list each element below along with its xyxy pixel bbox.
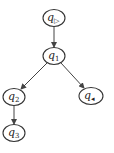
node-q-start: q▷ bbox=[43, 10, 65, 27]
node-label: q bbox=[84, 89, 91, 102]
node-label: q bbox=[48, 49, 55, 62]
node-q-end: q◂ bbox=[79, 88, 103, 105]
edge-q1-q2 bbox=[21, 63, 47, 89]
node-q3: q3 bbox=[3, 125, 25, 142]
node-label: q bbox=[8, 90, 15, 103]
tree-diagram: q▷ q1 q2 q◂ q3 bbox=[0, 0, 114, 153]
node-subscript: 1 bbox=[55, 55, 59, 63]
start-marker-icon: ▷ bbox=[54, 17, 60, 25]
node-q2: q2 bbox=[3, 89, 25, 106]
node-label: q bbox=[8, 126, 15, 139]
node-subscript: 2 bbox=[15, 96, 19, 104]
node-subscript: 3 bbox=[15, 132, 19, 140]
end-marker-icon: ◂ bbox=[91, 95, 95, 103]
edge-q1-qend bbox=[61, 63, 84, 88]
node-q1: q1 bbox=[43, 48, 65, 65]
node-label: q bbox=[47, 11, 54, 24]
